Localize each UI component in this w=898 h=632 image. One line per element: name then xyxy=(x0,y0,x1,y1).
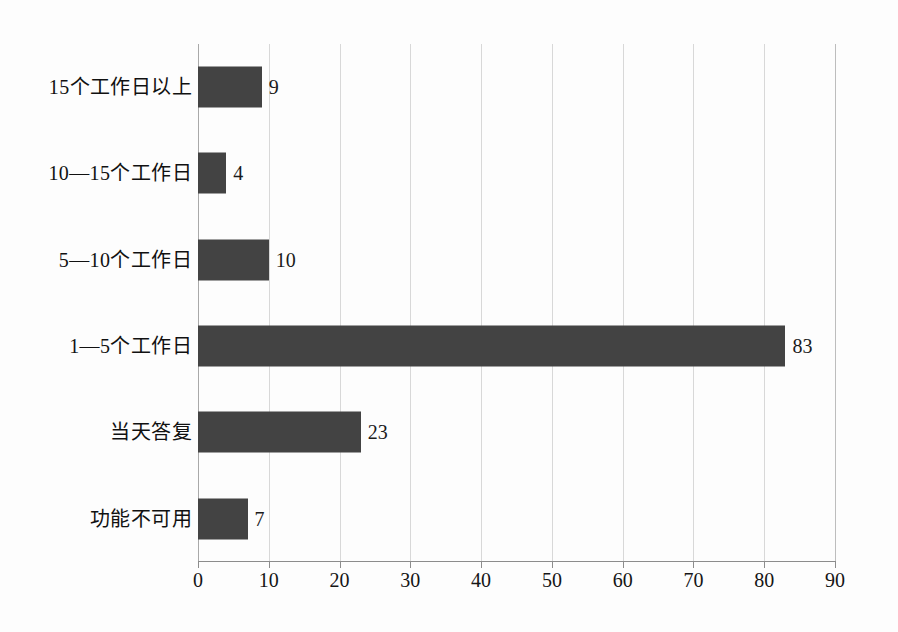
y-axis-tick-label: 5—10个工作日 xyxy=(59,217,192,303)
bar xyxy=(198,239,269,280)
x-axis-ticks xyxy=(198,562,836,568)
bar-value-label: 4 xyxy=(233,163,243,183)
bar-value-label: 7 xyxy=(255,509,265,529)
y-axis-tick-label: 1—5个工作日 xyxy=(69,303,192,389)
x-axis-tick xyxy=(835,562,836,568)
x-axis-tick-label: 80 xyxy=(754,570,774,590)
bars-layer: 9 4 10 83 23 7 xyxy=(198,44,835,562)
bar-row: 10 xyxy=(198,217,835,303)
plot-area: 9 4 10 83 23 7 xyxy=(198,44,835,562)
bar-row: 7 xyxy=(198,476,835,562)
x-axis-tick-label: 20 xyxy=(330,570,350,590)
bar xyxy=(198,153,226,194)
bar xyxy=(198,498,248,539)
bar xyxy=(198,326,785,367)
bar-value-label: 10 xyxy=(276,250,296,270)
x-axis-tick xyxy=(410,562,411,568)
x-axis-tick xyxy=(623,562,624,568)
bar xyxy=(198,412,361,453)
x-axis-tick xyxy=(481,562,482,568)
x-axis-tick xyxy=(340,562,341,568)
bar-chart: 15个工作日以上 10—15个工作日 5—10个工作日 1—5个工作日 当天答复… xyxy=(0,0,898,632)
y-axis-tick-label: 10—15个工作日 xyxy=(48,130,192,216)
x-axis-tick xyxy=(198,562,199,568)
y-axis-tick-label: 15个工作日以上 xyxy=(49,44,192,130)
x-axis-tick xyxy=(764,562,765,568)
x-axis-tick-label: 60 xyxy=(613,570,633,590)
x-axis-tick-label: 10 xyxy=(259,570,279,590)
bar-value-label: 23 xyxy=(368,422,388,442)
y-axis-tick-label: 当天答复 xyxy=(110,389,192,475)
bar-row: 9 xyxy=(198,44,835,130)
gridline xyxy=(835,44,836,562)
bar-row: 83 xyxy=(198,303,835,389)
x-axis-tick-label: 90 xyxy=(825,570,845,590)
bar-row: 23 xyxy=(198,389,835,475)
x-axis-tick xyxy=(693,562,694,568)
x-axis-tick-label: 0 xyxy=(193,570,203,590)
x-axis-tick-label: 70 xyxy=(683,570,703,590)
bar xyxy=(198,67,262,108)
x-axis-labels: 0102030405060708090 xyxy=(198,570,836,600)
x-axis-tick xyxy=(269,562,270,568)
x-axis-tick-label: 40 xyxy=(471,570,491,590)
x-axis-tick-label: 50 xyxy=(542,570,562,590)
y-axis-labels: 15个工作日以上 10—15个工作日 5—10个工作日 1—5个工作日 当天答复… xyxy=(0,44,192,562)
bar-row: 4 xyxy=(198,130,835,216)
y-axis-tick-label: 功能不可用 xyxy=(90,476,192,562)
x-axis-tick xyxy=(552,562,553,568)
bar-value-label: 9 xyxy=(269,77,279,97)
bar-value-label: 83 xyxy=(792,336,812,356)
x-axis-tick-label: 30 xyxy=(400,570,420,590)
